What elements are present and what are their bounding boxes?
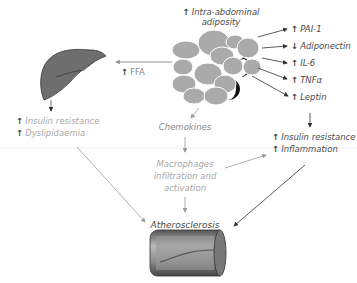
liver-icon [41, 49, 106, 100]
il6-label: IL-6 [291, 58, 315, 68]
inflammation-label: Inflammation [272, 144, 338, 154]
macrophages-label: Macrophages infiltration and activation [145, 158, 225, 194]
artery-icon [150, 230, 226, 276]
leptin-label: Leptin [291, 92, 327, 102]
chemokines-label: Chemokines [150, 122, 220, 132]
adiponectin-label: Adiponectin [291, 41, 351, 51]
tnfa-label: TNFα [291, 75, 322, 85]
adipose-tissue-icon [172, 30, 261, 105]
systemic-insulin-resistance-label: Insulin resistance [272, 132, 355, 142]
dyslipidaemia-label: Dyslipidaemia [16, 128, 85, 138]
ffa-label: FFA [121, 67, 145, 77]
liver-insulin-resistance-label: Insulin resistance [16, 116, 99, 126]
atherosclerosis-label: Atherosclerosis [145, 220, 225, 230]
pai1-label: PAI-1 [291, 24, 322, 34]
intra-abdominal-adiposity-label: Intra-abdominal adiposity [176, 7, 266, 27]
